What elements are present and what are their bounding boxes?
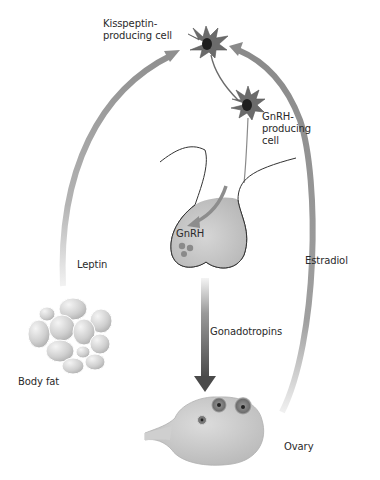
gnrh-granule <box>179 243 185 249</box>
kisspeptin-cell-label: Kisspeptin- producing cell <box>103 18 172 42</box>
gonadotropins-label: Gonadotropins <box>210 326 282 338</box>
pituitary-gland <box>160 147 296 268</box>
estradiol-label: Estradiol <box>305 255 348 267</box>
body-fat-cluster <box>28 298 112 374</box>
gnrh-cell-label: GnRH- producing cell <box>262 111 311 147</box>
kisspeptin-cell <box>188 26 238 100</box>
gnrh-cell <box>231 86 265 183</box>
leptin-arrow <box>63 50 180 286</box>
leptin-label: Leptin <box>77 259 107 271</box>
body-fat-label: Body fat <box>18 376 59 388</box>
diagram-canvas <box>0 0 380 480</box>
gnrh-granule <box>181 251 187 257</box>
ovary <box>145 397 264 465</box>
ovary-label: Ovary <box>284 441 313 453</box>
gnrh-label: GnRH <box>176 228 204 240</box>
gnrh-granule <box>187 245 193 251</box>
